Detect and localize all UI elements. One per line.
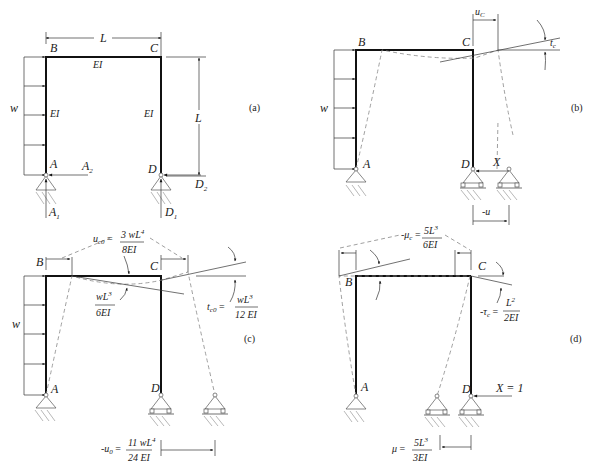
roller-support-displaced (496, 167, 522, 200)
panel-tag-b: (b) (571, 102, 583, 114)
load-label: w (320, 101, 328, 115)
svg-text:11 wL4: 11 wL4 (128, 436, 156, 448)
deflected-shape (356, 50, 513, 169)
svg-text:5L3: 5L3 (424, 224, 439, 236)
reaction-a1-label: A1 (48, 205, 60, 221)
svg-text:-τc =: -τc = (480, 306, 499, 319)
node-label-d: D (461, 382, 471, 396)
svg-text:uC: uC (475, 6, 485, 19)
deflected-shape (339, 276, 470, 396)
node-label-c: C (462, 35, 471, 49)
node-label-b: B (50, 41, 58, 55)
panel-b: B C w uC tc (320, 6, 583, 225)
svg-text:6EI: 6EI (96, 307, 111, 318)
svg-text:μ =: μ = (391, 443, 406, 454)
roller-support-d (460, 167, 486, 200)
beam-stiffness: EI (92, 59, 103, 70)
svg-text:tc0 =: tc0 = (207, 301, 225, 314)
panel-c: B C w uc0 = 3 wL4 8EI (12, 228, 258, 463)
tangent-line-c (471, 276, 512, 285)
svg-text:6EI: 6EI (423, 239, 438, 250)
unit-load-label: X = 1 (495, 381, 523, 395)
svg-text:-u: -u (482, 206, 490, 217)
svg-text:wL3: wL3 (237, 293, 253, 305)
bottom-displacement-mu: μ = 5L3 3EI (391, 435, 471, 463)
panel-tag-d: (d) (570, 333, 582, 345)
height-dimension: L (166, 57, 206, 176)
node-label-d: D (150, 381, 160, 395)
node-label-a: A (362, 157, 371, 171)
top-displacement-mu-c: -μc = 5L3 6EI (339, 224, 471, 276)
distributed-load: w (320, 50, 355, 169)
tangent-line-c (162, 262, 246, 280)
span-dimension: L (46, 31, 161, 58)
frame-members (356, 50, 473, 169)
reaction-d1-label: D1 (164, 205, 177, 221)
height-label: L (194, 111, 202, 125)
svg-text:3EI: 3EI (412, 452, 428, 463)
roller-support-d (148, 393, 174, 426)
roller-support-displaced (424, 394, 450, 427)
distributed-load: w (12, 276, 45, 395)
node-label-b: B (345, 275, 353, 289)
svg-text:2EI: 2EI (504, 312, 519, 323)
rotation-tc0: tc0 = wL3 12 EI (207, 247, 258, 320)
pin-support-a (344, 394, 366, 422)
distributed-load: w (10, 57, 45, 175)
roller-support-displaced (202, 393, 228, 426)
node-label-c: C (478, 259, 487, 273)
svg-text:-u0 =: -u0 = (101, 443, 121, 456)
span-label: L (99, 31, 107, 45)
roller-support-d (458, 394, 484, 427)
load-label: w (10, 101, 18, 115)
reaction-a2-label: A2 (81, 159, 93, 175)
bottom-displacement-u: -u (473, 205, 509, 225)
right-column-stiffness: EI (143, 108, 154, 119)
panel-tag-c: (c) (244, 333, 255, 345)
node-label-a: A (49, 157, 58, 171)
panel-d: B C -μc = 5L3 6EI -τc = L2 (339, 224, 582, 463)
node-label-c: C (150, 259, 159, 273)
frame-members (356, 276, 471, 396)
node-label-a: A (360, 380, 369, 394)
top-displacement-uc0: uc0 = 3 wL4 8EI (46, 228, 188, 276)
svg-text:12 EI: 12 EI (235, 309, 258, 320)
svg-text:8EI: 8EI (122, 244, 137, 255)
reaction-d2-label: D2 (194, 177, 208, 193)
node-label-b: B (358, 35, 366, 49)
load-label: w (12, 317, 20, 331)
node-label-c: C (150, 41, 159, 55)
svg-text:24 EI: 24 EI (128, 452, 151, 463)
svg-text:-μc =: -μc = (401, 229, 421, 242)
rotation-b: wL3 6EI (95, 288, 127, 318)
top-displacement-uc: uC (473, 6, 498, 50)
pin-support-a (35, 393, 56, 421)
node-label-d: D (147, 162, 157, 176)
deflected-shape (46, 272, 215, 395)
tangent-line-b (339, 259, 410, 276)
node-label-a: A (50, 382, 59, 396)
redundant-label: X (492, 155, 501, 169)
left-column-stiffness: EI (49, 108, 60, 119)
node-label-b: B (36, 255, 44, 269)
svg-text:3 wL4: 3 wL4 (120, 228, 145, 240)
node-label-d: D (460, 157, 470, 171)
panel-tag-a: (a) (249, 102, 260, 114)
panel-a: L B C EI EI EI w L (10, 31, 260, 221)
pin-support-a (346, 167, 366, 196)
bottom-displacement-u0: -u0 = 11 wL4 24 EI (101, 436, 215, 463)
svg-text:wL3: wL3 (96, 290, 112, 302)
svg-text:5L3: 5L3 (414, 436, 429, 448)
svg-text:L2: L2 (505, 296, 516, 308)
frame-analysis-diagram: L B C EI EI EI w L (0, 0, 598, 474)
